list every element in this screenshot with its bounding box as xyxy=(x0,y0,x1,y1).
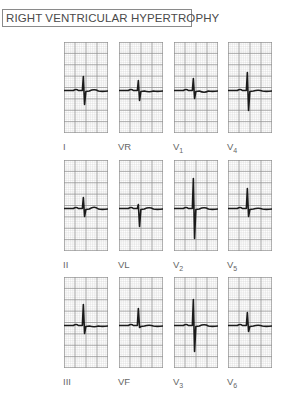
lead-name: II xyxy=(63,259,68,270)
ecg-grid xyxy=(228,42,272,133)
ecg-panel-i xyxy=(64,42,108,133)
ecg-grid xyxy=(174,42,218,133)
ecg-panel-iii xyxy=(64,277,108,368)
ecg-panel-vf xyxy=(119,277,163,368)
lead-name: III xyxy=(63,376,71,387)
ecg-grid xyxy=(228,277,272,368)
ecg-panel-vr xyxy=(119,42,163,133)
lead-label-iii: III xyxy=(63,376,71,387)
ecg-grid xyxy=(174,277,218,368)
lead-subscript: 5 xyxy=(233,265,237,272)
lead-name: VL xyxy=(118,259,130,270)
lead-name: VR xyxy=(118,141,131,152)
lead-label-vr: VR xyxy=(118,141,131,152)
ecg-grid xyxy=(119,160,163,251)
lead-subscript: 3 xyxy=(179,382,183,389)
lead-subscript: 1 xyxy=(179,147,183,154)
lead-subscript: 4 xyxy=(233,147,237,154)
ecg-panel-v3 xyxy=(174,277,218,368)
lead-label-vf: VF xyxy=(118,376,130,387)
lead-label-v6: V6 xyxy=(227,376,237,389)
ecg-panel-ii xyxy=(64,160,108,251)
figure-title: RIGHT VENTRICULAR HYPERTROPHY xyxy=(2,9,192,27)
ecg-panel-v5 xyxy=(228,160,272,251)
lead-label-i: I xyxy=(63,141,66,152)
ecg-grid xyxy=(119,277,163,368)
lead-label-v2: V2 xyxy=(173,259,183,272)
lead-name: I xyxy=(63,141,66,152)
lead-subscript: 6 xyxy=(233,382,237,389)
lead-label-v1: V1 xyxy=(173,141,183,154)
ecg-grid xyxy=(64,160,108,251)
ecg-panel-vl xyxy=(119,160,163,251)
ecg-grid xyxy=(228,160,272,251)
ecg-grid xyxy=(174,160,218,251)
ecg-grid xyxy=(64,277,108,368)
lead-label-v3: V3 xyxy=(173,376,183,389)
lead-subscript: 2 xyxy=(179,265,183,272)
ecg-panel-v4 xyxy=(228,42,272,133)
lead-label-v5: V5 xyxy=(227,259,237,272)
ecg-panel-v2 xyxy=(174,160,218,251)
ecg-grid xyxy=(64,42,108,133)
lead-label-v4: V4 xyxy=(227,141,237,154)
lead-label-ii: II xyxy=(63,259,68,270)
ecg-panel-v6 xyxy=(228,277,272,368)
lead-label-vl: VL xyxy=(118,259,130,270)
ecg-grid xyxy=(119,42,163,133)
ecg-panel-v1 xyxy=(174,42,218,133)
lead-name: VF xyxy=(118,376,130,387)
